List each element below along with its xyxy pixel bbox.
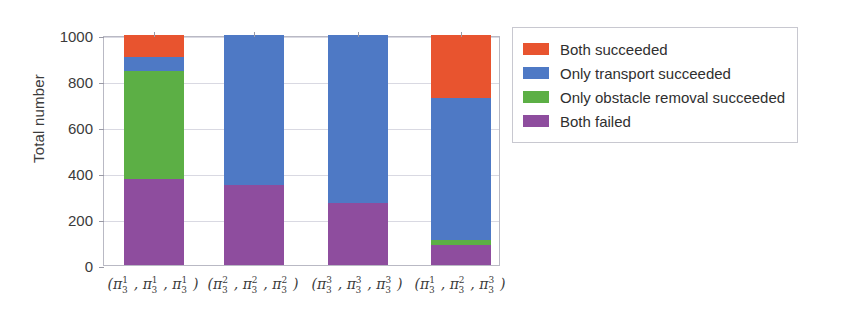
stacked-bar-chart-figure: Total number 02004006008001000 (π13, π13…	[0, 0, 847, 324]
y-axis-tick-label: 1000	[33, 28, 93, 45]
y-axis-tick-mark	[99, 37, 104, 38]
bar-segment[interactable]	[124, 179, 184, 265]
y-axis-tick-label: 0	[33, 258, 93, 275]
legend-item[interactable]: Only transport succeeded	[523, 61, 785, 85]
legend-item[interactable]: Both succeeded	[523, 37, 785, 61]
y-axis-tick-label: 200	[33, 212, 93, 229]
legend-item[interactable]: Only obstacle removal succeeded	[523, 85, 785, 109]
legend-item[interactable]: Both failed	[523, 109, 785, 133]
legend-color-swatch	[523, 67, 549, 79]
x-axis-tick-label: (π13, π23, π33)	[385, 276, 535, 292]
bar-segment[interactable]	[431, 240, 491, 246]
bar-segment[interactable]	[224, 185, 284, 266]
x-axis-tick-mark	[461, 32, 462, 37]
y-axis-tick-mark	[99, 175, 104, 176]
legend-label: Only obstacle removal succeeded	[560, 89, 785, 106]
x-axis-tick-mark	[358, 32, 359, 37]
y-axis-tick-label: 600	[33, 120, 93, 137]
bar-segment[interactable]	[124, 35, 184, 57]
legend: Both succeededOnly transport succeededOn…	[512, 27, 798, 143]
legend-label: Both failed	[560, 113, 631, 130]
y-axis-tick-mark	[99, 83, 104, 84]
bar-segment[interactable]	[224, 35, 284, 185]
bar-segment[interactable]	[328, 203, 388, 265]
legend-color-swatch	[523, 91, 549, 103]
y-axis-title: Total number	[30, 19, 47, 219]
bar-segment[interactable]	[124, 57, 184, 71]
stacked-bar[interactable]	[431, 35, 491, 265]
y-axis-tick-mark	[99, 267, 104, 268]
y-axis-tick-mark	[99, 129, 104, 130]
y-axis-tick-label: 800	[33, 74, 93, 91]
stacked-bar[interactable]	[224, 35, 284, 265]
bar-segment[interactable]	[431, 98, 491, 239]
legend-label: Both succeeded	[560, 41, 668, 58]
bar-segment[interactable]	[124, 71, 184, 179]
legend-color-swatch	[523, 43, 549, 55]
plot-area	[103, 36, 500, 266]
bar-segment[interactable]	[431, 245, 491, 265]
x-axis-tick-mark	[154, 32, 155, 37]
legend-color-swatch	[523, 115, 549, 127]
bar-segment[interactable]	[328, 35, 388, 203]
y-axis-tick-label: 400	[33, 166, 93, 183]
stacked-bar[interactable]	[124, 35, 184, 265]
x-axis-tick-mark	[254, 32, 255, 37]
legend-label: Only transport succeeded	[560, 65, 731, 82]
stacked-bar[interactable]	[328, 35, 388, 265]
bar-segment[interactable]	[431, 35, 491, 98]
y-axis-tick-mark	[99, 221, 104, 222]
